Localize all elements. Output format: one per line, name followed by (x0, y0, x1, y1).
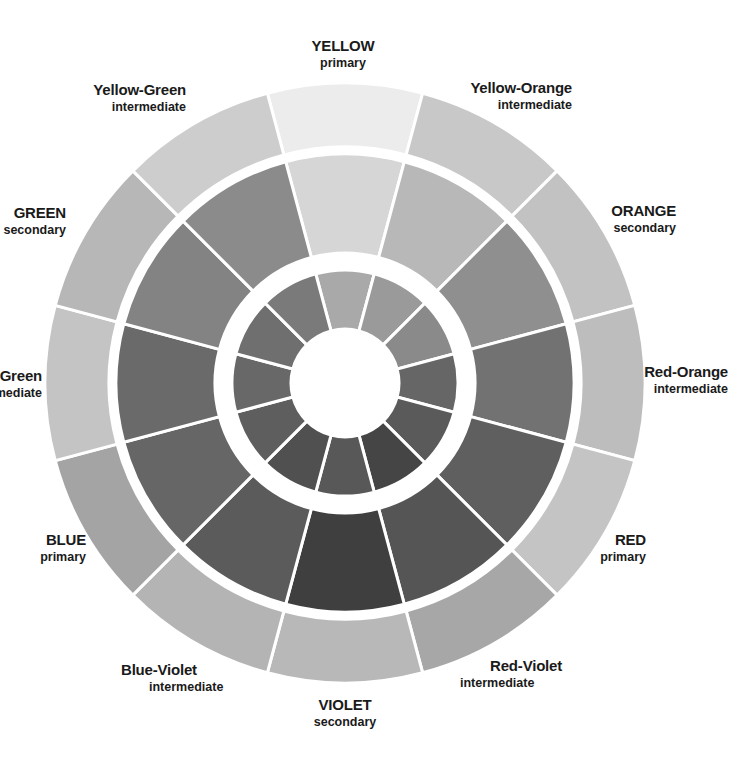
label-green: GREEN secondary (0, 205, 66, 237)
label-red: RED primary (590, 532, 646, 564)
label-name: Yellow-Orange (440, 80, 572, 96)
label-red-violet: Red-Violet intermediate (460, 658, 562, 690)
label-blue-green: Blue-Green intermediate (0, 368, 42, 400)
label-red-orange: Red-Orange intermediate (636, 364, 728, 396)
label-name: GREEN (0, 205, 66, 221)
label-name: YELLOW (303, 38, 383, 54)
label-kind: intermediate (121, 681, 231, 694)
label-kind: primary (590, 551, 646, 564)
label-yellow: YELLOW primary (303, 38, 383, 70)
wedge-outer-yellow (267, 83, 422, 155)
label-kind: intermediate (636, 383, 728, 396)
label-name: Blue-Violet (121, 662, 231, 678)
color-wheel (0, 0, 738, 772)
label-kind: secondary (580, 222, 676, 235)
label-blue-violet: Blue-Violet intermediate (121, 662, 231, 694)
label-yellow-orange: Yellow-Orange intermediate (440, 80, 572, 112)
label-blue: BLUE primary (20, 532, 86, 564)
label-name: BLUE (20, 532, 86, 548)
label-orange: ORANGE secondary (580, 203, 676, 235)
label-yellow-green: Yellow-Green intermediate (80, 82, 186, 114)
label-violet: VIOLET secondary (305, 697, 385, 729)
label-kind: secondary (305, 716, 385, 729)
label-name: VIOLET (305, 697, 385, 713)
label-name: Red-Violet (460, 658, 562, 674)
wedge-outer-blue-green (45, 305, 117, 460)
label-kind: intermediate (0, 387, 42, 400)
center-hub (291, 329, 399, 437)
label-kind: intermediate (460, 677, 562, 690)
label-kind: intermediate (440, 99, 572, 112)
label-kind: secondary (0, 224, 66, 237)
label-name: Yellow-Green (80, 82, 186, 98)
label-kind: primary (303, 57, 383, 70)
wedge-outer-red-orange (573, 305, 645, 460)
label-name: Red-Orange (636, 364, 728, 380)
wedge-outer-violet (267, 611, 422, 683)
label-name: Blue-Green (0, 368, 42, 384)
label-name: RED (590, 532, 646, 548)
label-name: ORANGE (580, 203, 676, 219)
label-kind: primary (20, 551, 86, 564)
label-kind: intermediate (80, 101, 186, 114)
